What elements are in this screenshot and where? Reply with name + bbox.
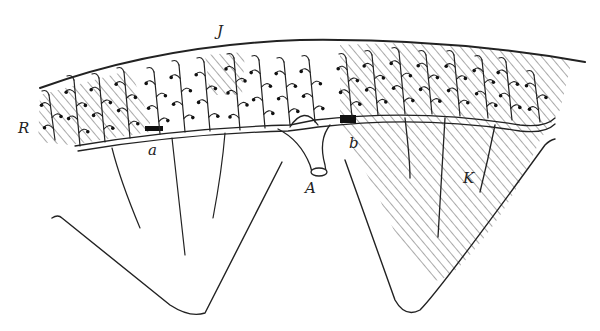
branch-node-dot (86, 130, 90, 134)
branch-node-dot (492, 80, 496, 84)
illustration: J R a A b K (0, 0, 600, 331)
branch-node-dot (228, 115, 232, 119)
label-b: b (349, 134, 359, 152)
branch-node-dot (336, 67, 340, 71)
left-descending-vessels (112, 133, 225, 255)
branch-node-dot (411, 99, 415, 103)
branch-node-dot (134, 96, 138, 100)
branch-node-dot (252, 98, 256, 102)
branch-node-dot (319, 82, 323, 86)
branch-node-dot (89, 88, 93, 92)
branch-node-dot (356, 79, 360, 83)
branch-node-dot (389, 62, 393, 66)
branch-node-dot (294, 84, 298, 88)
branch-node-dot (518, 106, 522, 110)
branch-node-dot (419, 88, 423, 92)
branch-tip-curl (302, 56, 309, 61)
branch-tip-curl (172, 61, 179, 66)
branch-tip-curl (117, 68, 124, 73)
branch-node-dot (226, 91, 230, 95)
branch-node-dot (114, 82, 118, 86)
branch-node-dot (544, 96, 548, 100)
branch-node-dot (464, 77, 468, 81)
branch-node-dot (59, 115, 63, 119)
hatch-left-upper (38, 70, 150, 145)
branch-node-dot (269, 84, 273, 88)
branch-node-dot (194, 73, 198, 77)
branch-node-dot (496, 71, 500, 75)
branch-stem (179, 65, 185, 132)
branch-node-dot (499, 94, 503, 98)
branch-stem (259, 60, 265, 128)
branch-tip-curl (197, 58, 204, 63)
branch-node-dot (224, 67, 228, 71)
branch-node-dot (447, 89, 451, 93)
branch-node-dot (43, 126, 47, 130)
branch-tip-curl (147, 68, 154, 73)
branch-node-dot (40, 103, 44, 107)
branch-node-dot (136, 122, 140, 126)
branch-node-dot (214, 87, 218, 91)
branch-node-dot (277, 97, 281, 101)
branch-node-dot (67, 117, 71, 121)
branch-node-dot (243, 79, 247, 83)
branch-node-dot (144, 82, 148, 86)
branch-node-dot (302, 94, 306, 98)
label-K: K (462, 169, 475, 187)
branch-node-dot (249, 71, 253, 75)
label-J: J (214, 22, 224, 40)
branch-node-dot (111, 126, 115, 130)
branch-node-dot (472, 69, 476, 73)
branch-node-dot (274, 72, 278, 76)
label-a: a (148, 141, 157, 159)
branch-stem (284, 62, 290, 125)
left-lobe-outline (52, 162, 282, 314)
branch-stem (309, 60, 315, 122)
hatch-left-small (205, 52, 245, 95)
branch-node-dot (299, 70, 303, 74)
branch-node-dot (147, 106, 151, 110)
branch-node-dot (166, 119, 170, 123)
hatched-regions (38, 43, 572, 280)
branch-node-dot (109, 101, 113, 105)
branch-node-dot (189, 89, 193, 93)
branch-node-dot (296, 110, 300, 114)
branch-node-dot (245, 103, 249, 107)
branch-node-dot (191, 116, 195, 120)
branch-node-dot (216, 114, 220, 118)
branch-node-dot (525, 84, 529, 88)
branch-node-dot (384, 100, 388, 104)
branch-node-dot (438, 99, 442, 103)
branch-node-dot (339, 91, 343, 95)
branch-node-dot (321, 107, 325, 111)
marker-b (340, 115, 356, 123)
branch-node-dot (528, 107, 532, 111)
label-R: R (17, 119, 29, 137)
branch-node-dot (358, 102, 362, 106)
branch-node-dot (362, 64, 366, 68)
branch-node-dot (169, 76, 173, 80)
branch-node-dot (416, 64, 420, 68)
label-A: A (303, 179, 316, 197)
branch-node-dot (164, 94, 168, 98)
branch-node-dot (392, 86, 396, 90)
branch-tip-curl (277, 58, 284, 63)
branch-node-dot (516, 82, 520, 86)
branch-node-dot (64, 90, 68, 94)
branch-tip-curl (252, 56, 259, 61)
branch-node-dot (475, 92, 479, 96)
branch-node-dot (444, 64, 448, 68)
branch-node-dot (92, 114, 96, 118)
marker-a (145, 126, 163, 131)
branch-tip-curl (92, 74, 99, 79)
branch-node-dot (365, 88, 369, 92)
branch-stem (154, 72, 160, 134)
branch-node-dot (172, 102, 176, 106)
branch-node-dot (84, 104, 88, 108)
branch-node-dot (409, 74, 413, 78)
branch-node-dot (436, 76, 440, 80)
branch-node-dot (494, 104, 498, 108)
branch-node-dot (197, 101, 201, 105)
branch-node-dot (382, 76, 386, 80)
branch-node-dot (271, 112, 275, 116)
